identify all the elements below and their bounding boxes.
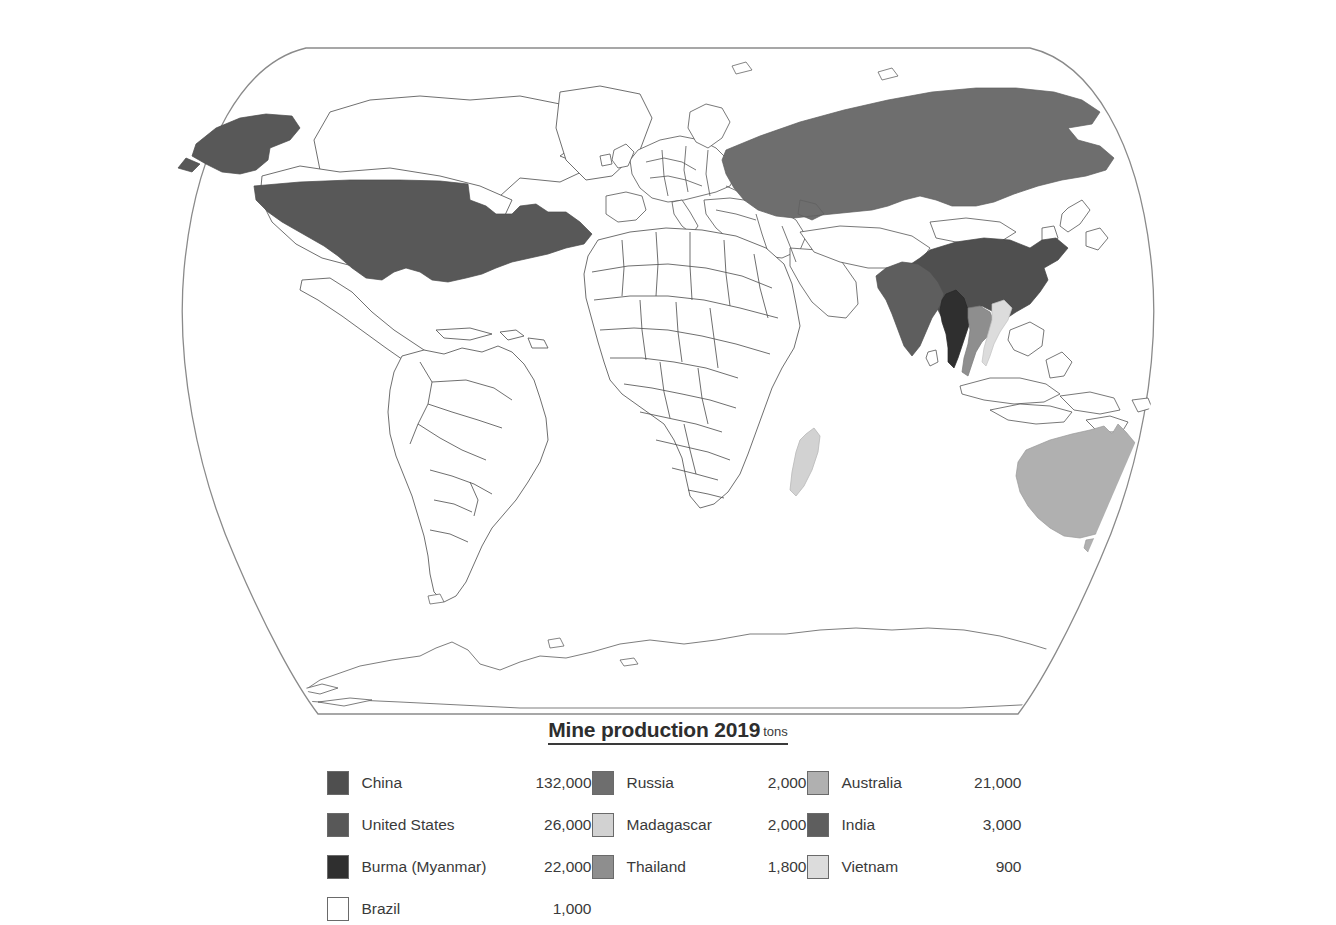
map-legend: Mine production 2019tons China 132,000 U… [0,718,1336,925]
legend-title-underline: Mine production 2019tons [548,718,787,745]
legend-value-australia: 21,000 [964,774,1022,792]
legend-label-india: India [842,816,964,834]
legend-swatch-russia [592,771,614,795]
legend-label-australia: Australia [842,774,964,792]
legend-label-madagascar: Madagascar [627,816,757,834]
legend-item-madagascar[interactable]: Madagascar 2,000 [592,804,807,846]
legend-title-text: Mine production 2019 [548,718,760,741]
legend-label-thailand: Thailand [627,858,757,876]
legend-value-burma-myanmar: 22,000 [526,858,592,876]
legend-item-burma-myanmar[interactable]: Burma (Myanmar) 22,000 [327,846,592,888]
legend-value-madagascar: 2,000 [757,816,807,834]
legend-value-vietnam: 900 [964,858,1022,876]
legend-units-text: tons [763,724,788,739]
legend-swatch-thailand [592,855,614,879]
legend-label-vietnam: Vietnam [842,858,964,876]
legend-item-russia[interactable]: Russia 2,000 [592,762,807,804]
legend-item-vietnam[interactable]: Vietnam 900 [807,846,1022,888]
legend-label-china: China [362,774,526,792]
legend-swatch-india [807,813,829,837]
legend-item-china[interactable]: China 132,000 [327,762,592,804]
legend-item-india[interactable]: India 3,000 [807,804,1022,846]
legend-column-3: Australia 21,000 India 3,000 Vietnam 900 [807,762,1022,888]
legend-item-australia[interactable]: Australia 21,000 [807,762,1022,804]
legend-swatch-united-states [327,813,349,837]
legend-item-united-states[interactable]: United States 26,000 [327,804,592,846]
legend-title-row: Mine production 2019tons [0,718,1336,748]
footer-cropped-text [0,896,1336,911]
world-map-svg [0,0,1336,730]
legend-swatch-madagascar [592,813,614,837]
legend-label-burma-myanmar: Burma (Myanmar) [362,858,526,876]
legend-value-china: 132,000 [526,774,592,792]
legend-swatch-china [327,771,349,795]
legend-value-india: 3,000 [964,816,1022,834]
legend-label-united-states: United States [362,816,526,834]
legend-value-united-states: 26,000 [526,816,592,834]
legend-column-2: Russia 2,000 Madagascar 2,000 Thailand 1… [592,762,807,888]
legend-item-thailand[interactable]: Thailand 1,800 [592,846,807,888]
legend-swatch-vietnam [807,855,829,879]
legend-label-russia: Russia [627,774,757,792]
legend-swatch-burma-myanmar [327,855,349,879]
legend-value-thailand: 1,800 [757,858,807,876]
legend-swatch-australia [807,771,829,795]
legend-value-russia: 2,000 [757,774,807,792]
world-map-container [0,0,1336,730]
